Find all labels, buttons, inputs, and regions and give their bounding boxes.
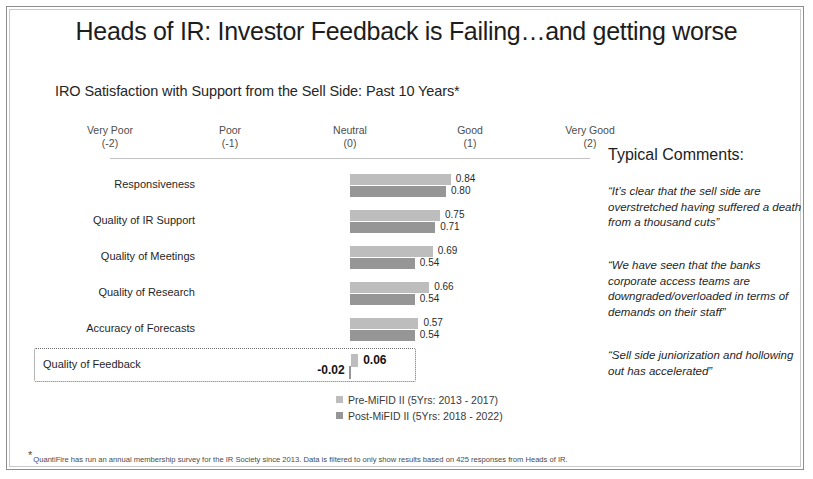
chart-row-bars: 0.06-0.02 <box>35 349 635 385</box>
bar-value-post: 0.54 <box>420 329 439 340</box>
legend-item-pre-mifid[interactable]: Pre-MiFID II (5Yrs: 2013 - 2017) <box>336 392 503 408</box>
bar-post <box>350 330 415 341</box>
footnote-text: QuantiFire has run an annual membership … <box>33 455 567 464</box>
bar-value-post: 0.54 <box>420 293 439 304</box>
legend-label: Pre-MiFID II (5Yrs: 2013 - 2017) <box>348 394 498 406</box>
chart-legend: Pre-MiFID II (5Yrs: 2013 - 2017)Post-MiF… <box>336 392 503 424</box>
bar-value-pre: 0.06 <box>363 353 386 367</box>
bar-pre <box>350 318 418 329</box>
bar-value-post: 0.71 <box>440 221 459 232</box>
legend-swatch-icon <box>336 412 343 419</box>
slide-canvas: Heads of IR: Investor Feedback is Failin… <box>0 0 813 479</box>
chart-row: Accuracy of Forecasts0.570.54 <box>0 312 600 348</box>
bar-value-post: 0.54 <box>420 257 439 268</box>
bar-pre <box>350 282 429 293</box>
chart-row: Quality of IR Support0.750.71 <box>0 204 600 240</box>
chart-row-bars: 0.570.54 <box>0 312 600 348</box>
chart-row: Quality of Research0.660.54 <box>0 276 600 312</box>
comments-heading: Typical Comments: <box>608 146 744 164</box>
bar-value-post: -0.02 <box>309 363 345 377</box>
legend-swatch-icon <box>336 396 343 403</box>
chart-row-bars: 0.840.80 <box>0 168 600 204</box>
bar-value-pre: 0.66 <box>434 281 453 292</box>
bar-post <box>350 294 415 305</box>
chart-row-highlighted: Quality of Feedback0.06-0.02 <box>34 348 416 382</box>
chart-row-bars: 0.660.54 <box>0 276 600 312</box>
bar-post <box>350 258 415 269</box>
chart-row: Quality of Meetings0.690.54 <box>0 240 600 276</box>
bar-value-pre: 0.69 <box>438 245 457 256</box>
bar-post <box>350 186 446 197</box>
comment-quote-2: “We have seen that the banks corporate a… <box>608 258 808 320</box>
comment-quote-1: “It’s clear that the sell side are overs… <box>608 184 808 231</box>
chart-row: Responsiveness0.840.80 <box>0 168 600 204</box>
chart-row-bars: 0.690.54 <box>0 240 600 276</box>
bar-value-post: 0.80 <box>451 185 470 196</box>
bar-post <box>349 366 351 379</box>
bar-pre <box>350 210 440 221</box>
footnote: *QuantiFire has run an annual membership… <box>28 449 798 464</box>
bar-pre <box>351 354 358 367</box>
bar-value-pre: 0.57 <box>423 317 442 328</box>
legend-item-post-mifid[interactable]: Post-MiFID II (5Yrs: 2018 - 2022) <box>336 408 503 424</box>
bar-value-pre: 0.75 <box>445 209 464 220</box>
legend-label: Post-MiFID II (5Yrs: 2018 - 2022) <box>348 410 503 422</box>
bar-post <box>350 222 435 233</box>
bar-pre <box>350 174 451 185</box>
bar-value-pre: 0.84 <box>456 173 475 184</box>
chart-row-bars: 0.750.71 <box>0 204 600 240</box>
footnote-marker: * <box>28 449 32 461</box>
bar-pre <box>350 246 433 257</box>
comment-quote-3: “Sell side juniorization and hollowing o… <box>608 348 808 379</box>
